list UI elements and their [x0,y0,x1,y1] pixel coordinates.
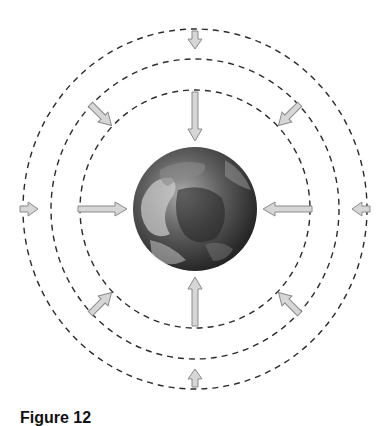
arrow-top-inner-icon [188,92,202,141]
arrow-bottom-inner-icon [188,277,202,326]
arrow-topright-diag-icon [273,99,304,130]
arrow-topleft-diag-icon [85,99,116,130]
arrow-left-inner-icon [78,202,127,216]
arrow-right-inner-icon [263,202,312,216]
arrow-top-outer-icon [188,31,202,49]
arrow-left-outer-icon [20,202,38,216]
earth-globe [133,147,257,271]
arrow-bottomleft-diag-icon [85,287,116,318]
arrow-bottomright-diag-icon [273,287,304,318]
figure-caption: Figure 12 [20,410,91,426]
arrow-bottom-outer-icon [188,369,202,387]
